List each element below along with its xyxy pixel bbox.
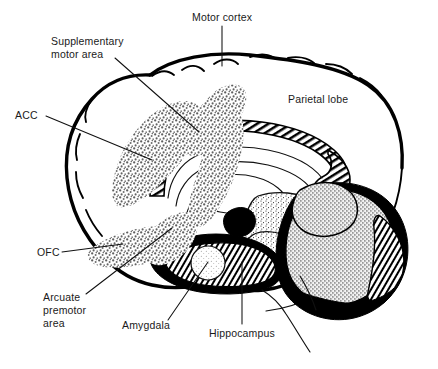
label-amygdala: Amygdala [122,319,170,331]
label-arcuate-premotor-area-line2: premotor [43,304,87,316]
label-supplementary-motor-area-line2: motor area [51,48,103,60]
brain-diagram-figure: Motor cortex Supplementary motor area AC… [0,0,438,369]
cerebellum [276,183,408,320]
label-supplementary-motor-area-line1: Supplementary [51,35,124,47]
label-ofc: OFC [37,246,60,258]
cerebellum-upper-lobule [292,183,357,237]
amygdala-body [191,246,225,280]
label-hippocampus: Hippocampus [209,327,275,339]
midbrain [224,208,256,237]
label-arcuate-premotor-area-line3: area [43,317,65,329]
label-parietal-lobe: Parietal lobe [288,93,348,105]
label-motor-cortex: Motor cortex [192,11,253,23]
label-acc: ACC [15,109,38,121]
brain-diagram-svg: Motor cortex Supplementary motor area AC… [0,0,438,369]
label-arcuate-premotor-area-line1: Arcuate [43,291,80,303]
